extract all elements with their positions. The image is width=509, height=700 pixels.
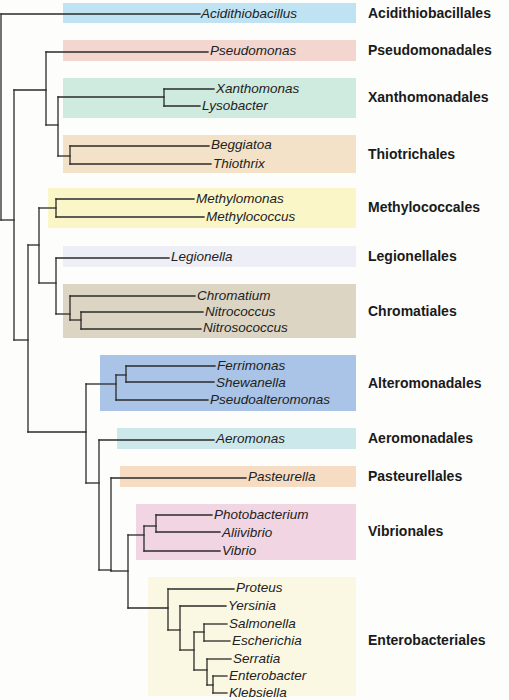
taxon-label: Photobacterium (214, 508, 309, 522)
taxon-label: Vibrio (222, 544, 256, 558)
order-label: Chromatiales (368, 303, 457, 319)
taxon-label: Proteus (236, 581, 283, 595)
taxon-label: Escherichia (232, 634, 302, 648)
order-label: Alteromonadales (368, 375, 482, 391)
order-label: Methylococcales (368, 199, 480, 215)
taxon-label: Ferrimonas (217, 359, 285, 373)
taxon-label: Enterobacter (229, 669, 306, 683)
taxon-label: Shewanella (216, 376, 286, 390)
taxon-label: Yersinia (228, 599, 276, 613)
order-label: Legionellales (368, 248, 457, 264)
taxon-label: Klebsiella (229, 686, 287, 700)
taxon-label: Acidithiobacillus (201, 7, 297, 21)
order-label: Xanthomonadales (368, 89, 489, 105)
taxon-label: Beggiatoa (211, 138, 272, 152)
taxon-label: Chromatium (197, 289, 271, 303)
taxon-label: Pasteurella (248, 470, 316, 484)
order-label: Vibrionales (368, 523, 443, 539)
taxon-label: Aeromonas (216, 432, 285, 446)
taxon-label: Lysobacter (202, 99, 268, 113)
taxon-label: Nitrosococcus (203, 321, 288, 335)
order-label: Pasteurellales (368, 468, 462, 484)
taxon-label: Nitrococcus (205, 305, 276, 319)
order-label: Aeromonadales (368, 430, 473, 446)
taxon-label: Salmonella (229, 617, 296, 631)
order-label: Acidithiobacillales (368, 5, 491, 21)
order-label: Thiotrichales (368, 146, 455, 162)
taxon-label: Pseudoalteromonas (210, 393, 330, 407)
order-label: Pseudomonadales (368, 42, 492, 58)
order-label: Enterobacteriales (368, 632, 486, 648)
taxon-label: Aliivibrio (222, 526, 272, 540)
taxon-label: Legionella (171, 250, 233, 264)
taxon-label: Thiothrix (213, 157, 265, 171)
taxon-label: Serratia (233, 652, 280, 666)
taxon-label: Pseudomonas (210, 44, 296, 58)
taxon-label: Xanthomonas (216, 82, 299, 96)
taxon-label: Methylomonas (196, 192, 284, 206)
taxon-label: Methylococcus (206, 210, 295, 224)
